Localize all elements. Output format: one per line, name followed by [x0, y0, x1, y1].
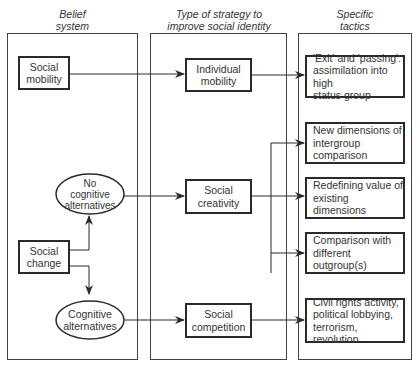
node-label: Cognitive alternatives: [63, 308, 117, 332]
node-cognitive-alternatives: Cognitive alternatives: [56, 301, 124, 339]
node-label: Social change: [27, 245, 61, 270]
node-individual-mobility: Individual mobility: [185, 58, 252, 92]
node-no-cognitive-alternatives: No cognitive alternatives: [56, 174, 124, 214]
node-social-creativity: Social creativity: [185, 179, 252, 214]
node-label: Social mobility: [26, 61, 62, 86]
node-social-competition: Social competition: [185, 303, 252, 338]
node-social-change: Social change: [18, 240, 70, 274]
node-different-outgroups: Comparison with different outgroup(s): [305, 232, 405, 274]
node-label: 'Exit' and 'passing': assimilation into …: [313, 52, 403, 102]
header-strategy-type: Type of strategy to improve social ident…: [145, 8, 293, 32]
node-label: Comparison with different outgroup(s): [313, 234, 403, 272]
header-specific-tactics: Specific tactics: [298, 8, 412, 32]
node-label: Civil rights activity, political lobbyin…: [313, 296, 403, 346]
node-civil-rights: Civil rights activity, political lobbyin…: [305, 298, 405, 343]
node-social-mobility: Social mobility: [18, 56, 70, 90]
node-label: Individual mobility: [196, 63, 240, 88]
node-label: Social competition: [192, 308, 246, 333]
node-label: New dimensions of intergroup comparison: [313, 124, 403, 162]
node-label: No cognitive alternatives: [64, 178, 115, 211]
node-label: Social creativity: [198, 184, 239, 209]
node-exit-passing: 'Exit' and 'passing': assimilation into …: [305, 55, 405, 98]
node-redefining-value: Redefining value of existing dimensions: [305, 177, 405, 219]
header-belief-system: Belief system: [7, 8, 138, 32]
node-new-dimensions: New dimensions of intergroup comparison: [305, 122, 405, 164]
node-label: Redefining value of existing dimensions: [313, 179, 403, 217]
